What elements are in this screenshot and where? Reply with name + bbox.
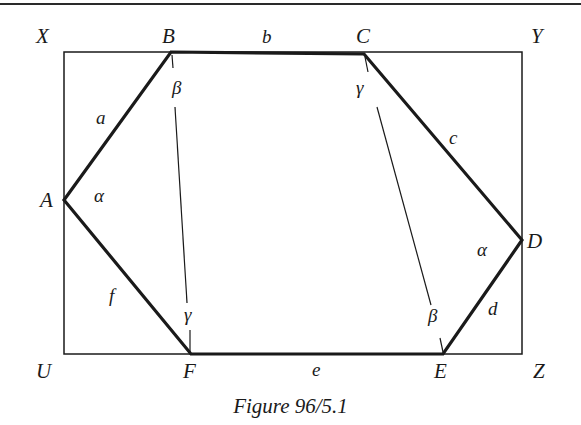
vertex-label-e: E — [434, 361, 447, 382]
diagonal-c-e — [377, 107, 431, 305]
angle-label-a: α — [94, 186, 104, 205]
angle-label-c: γ — [356, 78, 364, 97]
angle-label-b: β — [172, 78, 181, 97]
hexagon-abcdef — [64, 52, 522, 354]
vertex-label-a: A — [40, 190, 53, 211]
diagonal-c-e-lower — [440, 338, 443, 352]
vertex-label-f: F — [183, 361, 196, 382]
corner-label-x: X — [36, 26, 49, 47]
vertex-label-d: D — [527, 231, 542, 252]
vertex-label-c: C — [356, 26, 370, 47]
angle-label-e: β — [428, 306, 437, 325]
side-label-f: f — [109, 286, 114, 305]
figure-caption: Figure 96/5.1 — [0, 394, 581, 419]
side-label-d: d — [488, 299, 498, 318]
corner-label-z: Z — [533, 361, 545, 382]
side-label-e: e — [312, 360, 320, 379]
side-label-c: c — [449, 128, 457, 147]
corner-label-y: Y — [531, 26, 543, 47]
side-label-b: b — [262, 27, 272, 46]
angle-label-f: γ — [184, 305, 192, 324]
bounding-rectangle — [64, 52, 522, 354]
corner-label-u: U — [36, 361, 51, 382]
vertex-label-b: B — [162, 26, 175, 47]
angle-label-d: α — [477, 240, 487, 259]
geometry-diagram — [0, 0, 581, 425]
side-label-a: a — [96, 108, 106, 127]
diagonal-b-f-upper — [172, 55, 173, 68]
diagonal-b-f — [175, 107, 187, 303]
